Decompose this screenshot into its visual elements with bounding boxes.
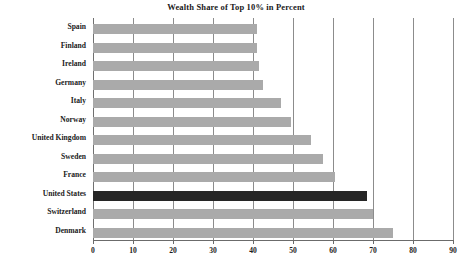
x-tick-label-60: 60: [318, 246, 348, 255]
category-label-denmark: Denmark: [0, 226, 86, 235]
gridline-90: [453, 18, 454, 240]
x-tick-mark-30: [213, 240, 214, 244]
plot-area: [93, 18, 453, 240]
category-label-ireland: Ireland: [0, 59, 86, 68]
wealth-share-bar-chart: Wealth Share of Top 10% in Percent Spain…: [0, 0, 472, 271]
bar-row[interactable]: [93, 168, 453, 187]
x-tick-label-20: 20: [158, 246, 188, 255]
bar-row[interactable]: [93, 113, 453, 132]
bar-row[interactable]: [93, 150, 453, 169]
bar-row[interactable]: [93, 57, 453, 76]
bar-row[interactable]: [93, 94, 453, 113]
category-label-spain: Spain: [0, 22, 86, 31]
bar-row[interactable]: [93, 205, 453, 224]
category-label-switzerland: Switzerland: [0, 207, 86, 216]
x-tick-label-70: 70: [358, 246, 388, 255]
bar-france[interactable]: [93, 172, 335, 182]
x-tick-mark-70: [373, 240, 374, 244]
category-label-finland: Finland: [0, 41, 86, 50]
bar-denmark[interactable]: [93, 228, 393, 238]
x-tick-mark-80: [413, 240, 414, 244]
x-tick-mark-0: [93, 240, 94, 244]
bar-finland[interactable]: [93, 43, 257, 53]
bar-row[interactable]: [93, 20, 453, 39]
bar-united-states[interactable]: [93, 191, 367, 201]
category-label-united-states: United States: [0, 189, 86, 198]
category-label-germany: Germany: [0, 78, 86, 87]
x-tick-mark-20: [173, 240, 174, 244]
x-tick-label-80: 80: [398, 246, 428, 255]
bar-row[interactable]: [93, 76, 453, 95]
x-tick-label-10: 10: [118, 246, 148, 255]
category-label-sweden: Sweden: [0, 152, 86, 161]
bar-norway[interactable]: [93, 117, 291, 127]
category-label-italy: Italy: [0, 96, 86, 105]
bar-spain[interactable]: [93, 24, 257, 34]
category-label-united-kingdom: United Kingdom: [0, 133, 86, 142]
x-tick-mark-90: [453, 240, 454, 244]
bar-ireland[interactable]: [93, 61, 259, 71]
x-tick-label-50: 50: [278, 246, 308, 255]
category-label-france: France: [0, 170, 86, 179]
x-tick-mark-60: [333, 240, 334, 244]
bar-united-kingdom[interactable]: [93, 135, 311, 145]
category-axis-labels: SpainFinlandIrelandGermanyItalyNorwayUni…: [0, 18, 90, 240]
bar-row[interactable]: [93, 131, 453, 150]
bar-switzerland[interactable]: [93, 209, 373, 219]
bar-row[interactable]: [93, 187, 453, 206]
x-tick-mark-40: [253, 240, 254, 244]
bar-sweden[interactable]: [93, 154, 323, 164]
x-tick-label-30: 30: [198, 246, 228, 255]
x-tick-label-90: 90: [438, 246, 468, 255]
bar-italy[interactable]: [93, 98, 281, 108]
chart-title: Wealth Share of Top 10% in Percent: [0, 2, 472, 12]
bar-germany[interactable]: [93, 80, 263, 90]
bar-row[interactable]: [93, 39, 453, 58]
x-axis-line: [93, 240, 453, 241]
bars-layer: [93, 18, 453, 240]
x-tick-label-0: 0: [78, 246, 108, 255]
category-label-norway: Norway: [0, 115, 86, 124]
x-tick-label-40: 40: [238, 246, 268, 255]
x-tick-mark-50: [293, 240, 294, 244]
x-tick-mark-10: [133, 240, 134, 244]
